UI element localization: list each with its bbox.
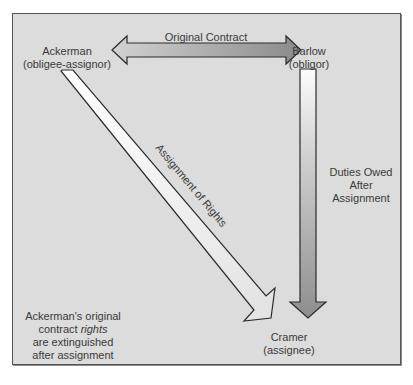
duties-owed-arrow: [290, 69, 326, 318]
assignment-of-rights-arrow: [61, 70, 275, 321]
cramer-role: (assignee): [261, 344, 317, 357]
duties-owed-label: Duties Owed After Assignment: [326, 166, 396, 205]
duties-owed-line3: Assignment: [326, 192, 396, 205]
ackerman-node: Ackerman (obligee-assignor): [22, 45, 112, 71]
note-line2-text: contract: [38, 323, 80, 335]
ackerman-role: (obligee-assignor): [22, 58, 112, 71]
duties-owed-line1: Duties Owed: [326, 166, 396, 179]
cramer-node: Cramer (assignee): [261, 331, 317, 357]
note-rights-emphasis: rights: [81, 323, 108, 335]
note-line1: Ackerman's original: [18, 310, 128, 323]
original-contract-label: Original Contract: [146, 31, 266, 44]
note-line3: are extinguished: [18, 336, 128, 349]
barlow-name: Barlow: [281, 45, 337, 58]
ackerman-name: Ackerman: [22, 45, 112, 58]
duties-owed-line2: After: [326, 179, 396, 192]
cramer-name: Cramer: [261, 331, 317, 344]
barlow-node: Barlow (obligor): [281, 45, 337, 71]
note-line2: contract rights: [18, 323, 128, 336]
barlow-role: (obligor): [281, 58, 337, 71]
extinguished-rights-note: Ackerman's original contract rights are …: [18, 310, 128, 362]
note-line4: after assignment: [18, 349, 128, 362]
